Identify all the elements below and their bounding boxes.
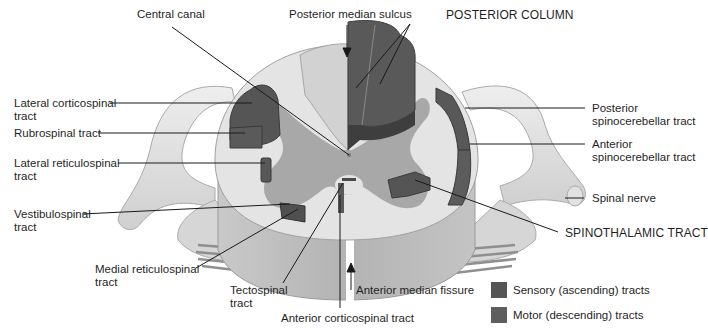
label-spinothalamic-tract: SPINOTHALAMIC TRACT	[565, 227, 708, 240]
label-medial-reticulospinal-tract: Medial reticulospinal tract	[95, 263, 199, 289]
legend-swatch-motor	[491, 307, 507, 323]
label-line-1: Lateral reticulospinal	[14, 157, 119, 170]
label-spinal-nerve: Spinal nerve	[592, 192, 656, 205]
label-rubrospinal-tract: Rubrospinal tract	[14, 127, 101, 140]
label-line-1: Vestibulospinal	[14, 208, 91, 221]
label-lateral-corticospinal-tract: Lateral corticospinal tract	[14, 97, 116, 123]
label-anterior-median-fissure: Anterior median fissure	[356, 284, 474, 297]
legend-label-sensory: Sensory (ascending) tracts	[513, 284, 650, 296]
label-anterior-corticospinal-tract: Anterior corticospinal tract	[281, 312, 414, 325]
label-line-2: spinocerebellar tract	[592, 115, 696, 128]
label-line-1: Medial reticulospinal	[95, 263, 199, 276]
label-anterior-spinocerebellar-tract: Anterior spinocerebellar tract	[592, 138, 696, 164]
label-posterior-median-sulcus: Posterior median sulcus	[289, 8, 412, 21]
tectospinal-tract	[338, 183, 344, 213]
label-line-2: tract	[14, 221, 91, 234]
legend-item-motor: Motor (descending) tracts	[491, 307, 643, 323]
label-line-2: tract	[230, 297, 288, 310]
legend-label-motor: Motor (descending) tracts	[513, 309, 643, 321]
label-posterior-spinocerebellar-tract: Posterior spinocerebellar tract	[592, 102, 696, 128]
rubrospinal-tract	[230, 126, 262, 148]
label-vestibulospinal-tract: Vestibulospinal tract	[14, 208, 91, 234]
label-line-1: Posterior	[592, 102, 696, 115]
label-line-2: tract	[14, 170, 119, 183]
label-line-1: Anterior	[592, 138, 696, 151]
label-line-2: spinocerebellar tract	[592, 151, 696, 164]
legend-item-sensory: Sensory (ascending) tracts	[491, 282, 650, 298]
label-line-2: tract	[14, 110, 116, 123]
label-line-2: tract	[95, 276, 199, 289]
label-tectospinal-tract: Tectospinal tract	[230, 284, 288, 310]
lateral-reticulospinal-tract	[261, 158, 271, 182]
label-lateral-reticulospinal-tract: Lateral reticulospinal tract	[14, 157, 119, 183]
label-line-1: Tectospinal	[230, 284, 288, 297]
label-line-1: Lateral corticospinal	[14, 97, 116, 110]
legend-swatch-sensory	[491, 282, 507, 298]
label-posterior-column: POSTERIOR COLUMN	[446, 9, 574, 22]
label-central-canal: Central canal	[137, 8, 205, 21]
